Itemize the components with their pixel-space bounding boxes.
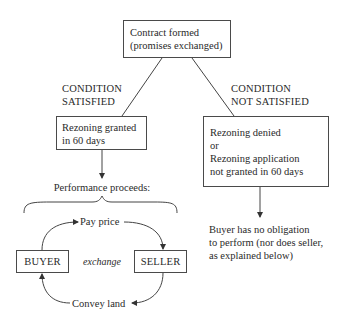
rezoning-denied-line1: Rezoning denied [210,126,328,139]
rezoning-denied-line3: Rezoning application [210,152,328,165]
condition-not-satisfied-line1: CONDITION [231,82,309,95]
contract-formed-line1: Contract formed [130,26,230,39]
rezoning-denied-line4: not granted in 60 days [210,165,328,178]
rezoning-granted-box: Rezoning granted in 60 days [56,116,147,150]
condition-satisfied-line2: SATISFIED [62,95,122,108]
contract-formed-line2: (promises exchanged) [130,39,230,52]
seller-box: SELLER [134,250,187,273]
pay-price-label: Pay price [80,215,119,228]
convey-land-label: Convey land [72,297,125,310]
condition-satisfied-label: CONDITION SATISFIED [62,82,122,108]
no-obligation-line1: Buyer has no obligation [209,223,323,236]
contract-formed-box: Contract formed (promises exchanged) [123,20,231,58]
buyer-no-obligation-text: Buyer has no obligation to perform (nor … [209,223,323,262]
condition-not-satisfied-line2: NOT SATISFIED [231,95,309,108]
condition-not-satisfied-label: CONDITION NOT SATISFIED [231,82,309,108]
rezoning-granted-line2: in 60 days [62,134,146,147]
condition-satisfied-line1: CONDITION [62,82,122,95]
no-obligation-line2: to perform (nor does seller, [209,236,323,249]
rezoning-denied-line2: or [210,139,328,152]
exchange-label: exchange [72,255,132,268]
buyer-box: BUYER [16,250,69,273]
seller-label: SELLER [141,256,181,267]
performance-proceeds-text: Performance proceeds: [40,181,164,194]
no-obligation-line3: as explained below) [209,249,323,262]
buyer-label: BUYER [24,256,61,267]
rezoning-granted-line1: Rezoning granted [62,121,146,134]
rezoning-denied-box: Rezoning denied or Rezoning application … [203,116,329,187]
